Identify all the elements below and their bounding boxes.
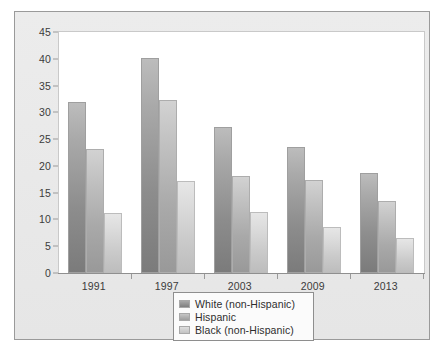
bar: [360, 173, 378, 273]
legend-swatch-icon: [179, 300, 190, 308]
legend-item-label: Black (non-Hispanic): [195, 324, 294, 336]
bars-layer: [59, 32, 424, 273]
legend-item-label: White (non-Hispanic): [195, 298, 295, 310]
bar: [104, 213, 122, 273]
x-axis-tick-mark: [277, 274, 278, 279]
bar: [378, 201, 396, 273]
bar: [287, 147, 305, 273]
y-axis-tick-label: 25: [39, 133, 51, 145]
x-axis-tick-label: 2003: [228, 280, 252, 292]
x-axis-tick-label: 2009: [301, 280, 325, 292]
bar: [177, 181, 195, 273]
legend-item[interactable]: White (non-Hispanic): [179, 297, 307, 310]
x-axis-tick-label: 2013: [374, 280, 398, 292]
bar: [232, 176, 250, 273]
y-axis-tick-mark: [53, 112, 58, 113]
y-axis-tick-label: 5: [45, 240, 51, 252]
legend-item[interactable]: Black (non-Hispanic): [179, 323, 307, 336]
y-axis-tick-mark: [53, 32, 58, 33]
y-axis: 051015202530354045: [15, 31, 58, 276]
bar: [396, 238, 414, 273]
y-axis-tick-label: 45: [39, 26, 51, 38]
x-axis-tick-mark: [423, 274, 424, 279]
bar: [141, 58, 159, 273]
x-axis-tick-mark: [131, 274, 132, 279]
legend-item-label: Hispanic: [195, 311, 236, 323]
y-axis-tick-mark: [53, 192, 58, 193]
x-axis-tick-mark: [204, 274, 205, 279]
chart-legend: White (non-Hispanic)HispanicBlack (non-H…: [173, 292, 314, 341]
bar: [323, 227, 341, 273]
legend-swatch-icon: [179, 313, 190, 321]
y-axis-tick-label: 35: [39, 80, 51, 92]
bar-group: [132, 32, 205, 273]
y-axis-tick-mark: [53, 246, 58, 247]
bar: [68, 102, 86, 273]
bar-group: [278, 32, 351, 273]
y-axis-tick-label: 10: [39, 213, 51, 225]
chart-screenshot: 051015202530354045 White (non-Hispanic)H…: [0, 0, 443, 355]
legend-item[interactable]: Hispanic: [179, 310, 307, 323]
y-axis-tick-label: 30: [39, 106, 51, 118]
bar-group: [59, 32, 132, 273]
bar: [305, 180, 323, 273]
y-axis-tick-label: 40: [39, 53, 51, 65]
bar: [214, 127, 232, 273]
chart-panel: 051015202530354045 White (non-Hispanic)H…: [14, 11, 430, 340]
x-axis-line: [58, 273, 425, 274]
bar-group: [351, 32, 424, 273]
y-axis-tick-mark: [53, 219, 58, 220]
y-axis-tick-mark: [53, 58, 58, 59]
bar: [250, 212, 268, 273]
bar: [86, 149, 104, 273]
y-axis-tick-mark: [53, 165, 58, 166]
bar-group: [205, 32, 278, 273]
x-axis-tick-mark: [350, 274, 351, 279]
x-axis-tick-label: 1991: [82, 280, 106, 292]
y-axis-tick-label: 20: [39, 160, 51, 172]
x-axis-tick-label: 1997: [155, 280, 179, 292]
y-axis-tick-mark: [53, 85, 58, 86]
bar: [159, 100, 177, 273]
y-axis-tick-label: 15: [39, 187, 51, 199]
legend-swatch-icon: [179, 326, 190, 334]
y-axis-tick-mark: [53, 139, 58, 140]
y-axis-tick-label: 0: [45, 267, 51, 279]
